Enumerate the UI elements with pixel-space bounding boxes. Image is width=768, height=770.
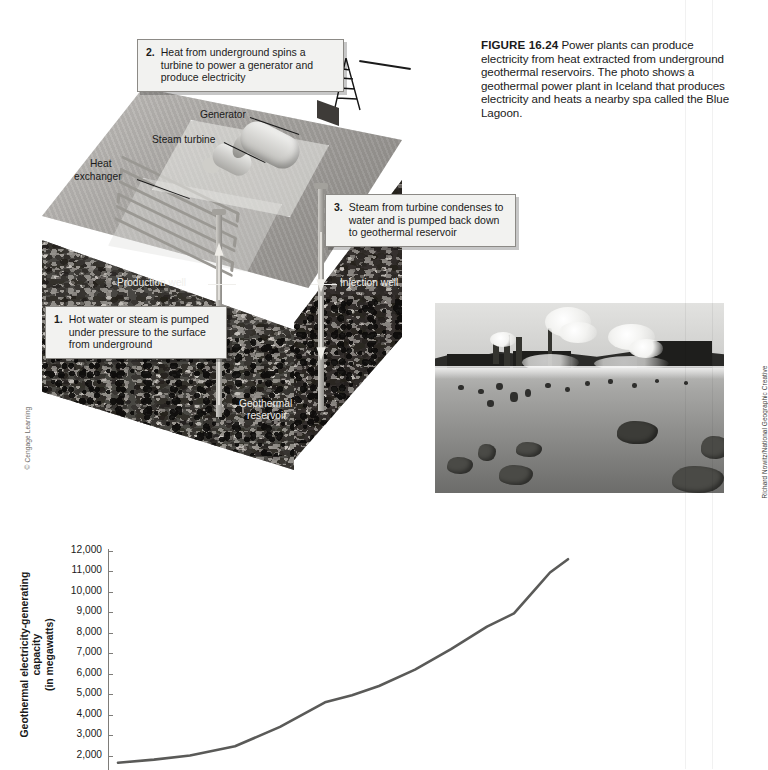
chart-y-tick-label: 2,000 (46, 749, 102, 760)
chart-y-axis (108, 549, 109, 770)
photo-steam-plume-5 (490, 332, 516, 347)
callout-1-number: 1. (54, 313, 63, 351)
label-steam-turbine: Steam turbine (152, 134, 215, 145)
chart-y-tick (108, 735, 113, 736)
chart-y-tick (108, 674, 113, 675)
photo-bather (496, 383, 503, 391)
page-seam (712, 0, 713, 769)
copyright-notice: © Cengage Learning (24, 398, 31, 470)
callout-2-number: 2. (146, 46, 155, 84)
chart-y-tick-label: 11,000 (46, 564, 102, 575)
chart-y-tick-label: 7,000 (46, 646, 102, 657)
chart-y-tick (108, 633, 113, 634)
chart-y-tick (108, 592, 113, 593)
photo-bather (608, 379, 613, 384)
callout-step-1: 1. Hot water or steam is pumped under pr… (45, 306, 227, 359)
label-reservoir-line1: Geothermal (239, 398, 292, 409)
callout-2-text: Heat from underground spins a turbine to… (161, 46, 334, 84)
callout-1-text: Hot water or steam is pumped under press… (69, 313, 217, 351)
chart-y-tick-label: 4,000 (46, 708, 102, 719)
callout-3-text: Steam from turbine condenses to water an… (349, 201, 506, 239)
figure-caption: FIGURE 16.24 Power plants can produce el… (481, 38, 731, 120)
photo-credit: Richard Nowitz/National Geographic Creat… (761, 359, 768, 499)
leader-injection-well (311, 284, 337, 285)
geothermal-plant-diagram: Generator Steam turbine Heat exchanger P… (0, 0, 470, 512)
leader-production-well (208, 284, 236, 285)
label-injection-well: Injection well (340, 277, 398, 288)
chart-y-tick-label: 9,000 (46, 605, 102, 616)
chart-y-tick-label: 5,000 (46, 687, 102, 698)
photo-rock (447, 457, 473, 474)
label-production-well: Production well (117, 277, 186, 288)
photo-rock (617, 421, 657, 444)
geothermal-plant-photo (435, 303, 724, 493)
photo-image (435, 303, 724, 493)
photo-bather (565, 387, 570, 392)
page-seam (685, 0, 686, 769)
photo-steam-plume-2 (559, 322, 597, 343)
photo-bather (525, 389, 531, 398)
photo-bather (487, 400, 494, 407)
callout-step-3: 3. Steam from turbine condenses to water… (325, 194, 516, 247)
label-reservoir-line2: reservoir (247, 410, 287, 421)
chart-y-tick-label: 6,000 (46, 667, 102, 678)
photo-bather (510, 392, 518, 402)
chart-y-tick (108, 551, 113, 552)
photo-bather (545, 383, 551, 389)
chart-y-tick (108, 756, 113, 757)
photo-rock (516, 442, 542, 457)
photo-stack-3 (516, 337, 522, 366)
photo-rock (478, 444, 495, 461)
label-generator: Generator (200, 109, 246, 120)
callout-3-number: 3. (334, 201, 343, 239)
geothermal-capacity-chart (0, 512, 754, 769)
label-heat-exchanger-line1: Heat (90, 158, 112, 169)
chart-y-tick (108, 653, 113, 654)
chart-y-tick (108, 694, 113, 695)
figure-caption-label: FIGURE 16.24 (481, 38, 558, 51)
chart-y-tick (108, 571, 113, 572)
chart-y-tick-label: 3,000 (46, 728, 102, 739)
chart-y-axis-label-line1: Geothermal electricity-generating capaci… (19, 555, 44, 755)
chart-y-tick (108, 612, 113, 613)
chart-y-tick-label: 8,000 (46, 626, 102, 637)
photo-bather (632, 383, 637, 388)
chart-y-tick-label: 10,000 (46, 585, 102, 596)
chart-y-tick-label: 12,000 (46, 544, 102, 555)
callout-step-2: 2. Heat from underground spins a turbine… (137, 39, 344, 92)
photo-water-mist (435, 366, 724, 379)
label-heat-exchanger-line2: exchanger (74, 171, 122, 182)
chart-y-tick (108, 715, 113, 716)
